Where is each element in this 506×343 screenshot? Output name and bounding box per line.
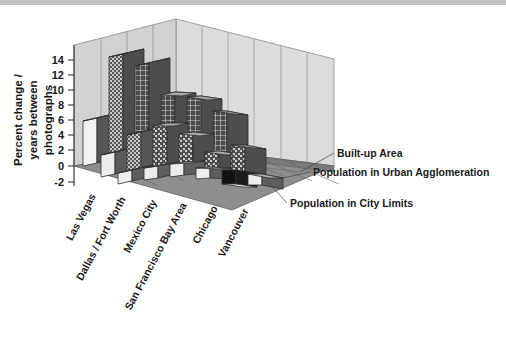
y-axis-title-line2: years between (27, 80, 39, 159)
category-label-vancouver: Vancouver (215, 206, 251, 259)
y-axis-title-line1: Percent change / (12, 73, 24, 166)
y-tick-6: 6 (58, 114, 64, 126)
three-d-bar-chart: 14 12 10 8 6 4 2 0 -2 Percent change / y… (0, 0, 506, 343)
y-tick-12: 12 (52, 69, 64, 81)
y-axis-title: Percent change / years between photograp… (12, 73, 54, 166)
y-tick-0: 0 (58, 160, 64, 172)
chart-screenshot: 14 12 10 8 6 4 2 0 -2 Percent change / y… (0, 0, 506, 343)
y-axis-title-line3: photographs (42, 85, 54, 155)
y-axis: 14 12 10 8 6 4 2 0 -2 (52, 45, 74, 188)
y-tick-2: 2 (58, 144, 64, 156)
category-labels: Las Vegas Dallas / Fort Worth Mexico Cit… (63, 191, 251, 312)
category-label-chicago: Chicago (190, 203, 220, 245)
category-label-san-francisco-bay-area: San Francisco Bay Area (122, 200, 189, 312)
y-tick-14: 14 (52, 54, 65, 66)
y-tick-4: 4 (58, 129, 65, 141)
y-tick-neg2: -2 (54, 176, 64, 188)
category-label-las-vegas: Las Vegas (63, 191, 98, 242)
legend-label-city-limits: Population in City Limits (290, 197, 413, 209)
legend-label-built-up-area: Built-up Area (337, 147, 403, 159)
legend-label-urban-agglomeration: Population in Urban Agglomeration (313, 166, 489, 178)
y-tick-8: 8 (58, 99, 64, 111)
